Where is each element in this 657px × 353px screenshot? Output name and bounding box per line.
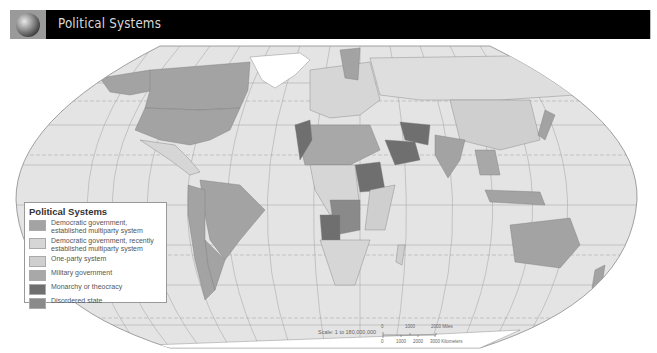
scale-km-2000: 2000 [413, 339, 423, 344]
legend-label: Monarchy or theocracy [51, 283, 122, 291]
canada [145, 62, 250, 110]
legend-swatch [29, 220, 46, 231]
map-legend: Political Systems Democratic government,… [24, 202, 167, 303]
scale-km-3000: 3000 Kilometers [430, 339, 463, 344]
scale-miles-1000: 1000 [405, 324, 415, 329]
scale-text: Scale: 1 to 180,000,000 [318, 329, 376, 335]
legend-label-line2: established multiparty system [51, 245, 143, 252]
sudan [355, 162, 385, 192]
scale-bar: 0 1000 2000 Miles 0 1000 2000 3000 Kilom… [380, 324, 480, 346]
scale-km-1000: 1000 [396, 339, 406, 344]
legend-label: Military government [51, 269, 112, 277]
legend-item-disordered: Disordered state [29, 297, 162, 309]
legend-label: Disordered state [51, 297, 102, 305]
legend-item-recent-democracy: Democratic government, recentlyestablish… [29, 237, 162, 253]
scale-miles-2000: 2000 Miles [431, 324, 453, 329]
legend-swatch [29, 284, 46, 295]
russia [370, 55, 580, 100]
legend-label: One-party system [51, 255, 106, 263]
scale-miles-0: 0 [381, 324, 384, 329]
angola [320, 215, 340, 240]
legend-item-monarchy: Monarchy or theocracy [29, 283, 162, 295]
legend-swatch [29, 270, 46, 281]
legend-swatch [29, 238, 46, 249]
legend-item-established-democracy: Democratic government,established multip… [29, 219, 162, 235]
legend-swatch [29, 256, 46, 267]
legend-label-line1: Democratic government, [51, 219, 127, 226]
legend-title: Political Systems [29, 206, 162, 217]
legend-swatch [29, 298, 46, 309]
legend-label-line1: Democratic government, recently [51, 237, 154, 244]
scale-km-0: 0 [381, 339, 384, 344]
legend-label-line2: established multiparty system [51, 227, 143, 234]
legend-item-military: Military government [29, 269, 162, 281]
legend-item-one-party: One-party system [29, 255, 162, 267]
